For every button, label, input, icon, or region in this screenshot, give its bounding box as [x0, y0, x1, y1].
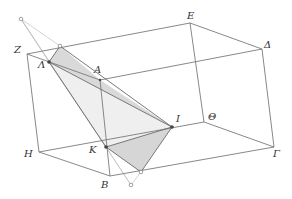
label-a: A: [93, 64, 101, 75]
point-k: [104, 145, 108, 149]
aux-point-bottom-edge: [139, 170, 143, 174]
label-delta: Δ: [263, 39, 271, 50]
label-gamma: Γ: [272, 148, 281, 159]
label-lambda: Λ: [37, 59, 45, 70]
label-z: Z: [13, 44, 22, 55]
label-b: B: [100, 179, 108, 190]
aux-point-top-edge: [58, 44, 62, 48]
point-i: [170, 125, 174, 129]
label-e: E: [186, 10, 195, 21]
geometry-diagram: Z E Δ H Θ Γ B Λ A I K: [0, 0, 292, 199]
point-lambda: [47, 60, 51, 64]
aux-point-bottom-apex: [129, 183, 133, 187]
label-k: K: [88, 144, 97, 155]
aux-point-apex: [19, 17, 23, 21]
label-h: H: [23, 148, 33, 159]
label-i: I: [175, 113, 181, 124]
label-theta: Θ: [208, 111, 216, 122]
point-a: [99, 79, 101, 81]
